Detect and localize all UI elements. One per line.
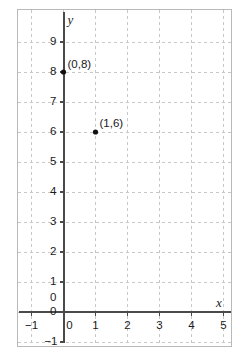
- x-axis-label: x: [216, 296, 222, 309]
- y-tick-label-8: 8: [27, 66, 57, 78]
- point-annotation: (0,8): [68, 59, 92, 71]
- y-tick-label-1: 1: [27, 276, 57, 288]
- y-tick-label-0: 0: [27, 306, 57, 318]
- y-tick-label-7: 7: [27, 96, 57, 108]
- data-point: [61, 69, 66, 74]
- data-point: [93, 129, 98, 134]
- x-tick-label--1: −1: [25, 320, 38, 332]
- x-tick-label-5: 5: [220, 320, 226, 332]
- graph-figure: 0123456789−10123450−1yx(0,8)(1,6): [0, 0, 246, 360]
- y-tick-label-4: 4: [27, 186, 57, 198]
- y-tick-label--1: −1: [28, 336, 58, 348]
- y-axis-label: y: [68, 13, 74, 26]
- point-annotation: (1,6): [100, 118, 124, 130]
- y-tick-label-2: 2: [27, 246, 57, 258]
- plot-area: 0123456789−10123450−1yx(0,8)(1,6): [0, 0, 246, 360]
- origin-label-top: 0: [27, 292, 57, 304]
- y-tick-label-5: 5: [27, 156, 57, 168]
- x-tick-label-2: 2: [124, 320, 130, 332]
- y-tick-label-3: 3: [27, 216, 57, 228]
- y-tick-label-6: 6: [27, 126, 57, 138]
- y-tick-label-9: 9: [27, 36, 57, 48]
- x-tick-label-0: 0: [66, 320, 72, 332]
- x-tick-label-1: 1: [92, 320, 98, 332]
- x-tick-label-4: 4: [188, 320, 194, 332]
- x-tick-label-3: 3: [156, 320, 162, 332]
